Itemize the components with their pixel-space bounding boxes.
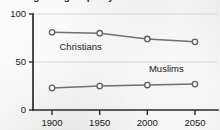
- gridlines-group: [33, 14, 218, 110]
- series-marker-muslims-1950: [97, 83, 102, 88]
- series-line-muslims: [52, 84, 195, 88]
- y-axis-ticks-group: 050100: [10, 8, 33, 115]
- x-tick-label-2000: 2000: [137, 117, 158, 128]
- y-tick-label-100: 100: [10, 8, 26, 19]
- data-series-group: [49, 30, 197, 91]
- x-axis-ticks-group: 1900195020002050: [41, 110, 205, 128]
- series-marker-christians-1900: [49, 30, 54, 35]
- series-marker-christians-2050: [192, 39, 197, 44]
- series-marker-christians-2000: [145, 36, 150, 41]
- series-marker-muslims-2050: [192, 81, 197, 86]
- series-marker-muslims-1900: [49, 85, 54, 90]
- series-label-christians: Christians: [60, 41, 102, 52]
- x-tick-label-1900: 1900: [41, 117, 62, 128]
- x-tick-label-1950: 1950: [89, 117, 110, 128]
- chart-figure: Religious groups by share 050100 1900195…: [0, 0, 220, 130]
- series-label-muslims: Muslims: [149, 63, 184, 74]
- series-marker-muslims-2000: [145, 82, 150, 87]
- y-tick-label-50: 50: [15, 56, 26, 67]
- series-annotations-group: ChristiansMuslims: [60, 41, 185, 73]
- series-marker-christians-1950: [97, 31, 102, 36]
- x-tick-label-2050: 2050: [184, 117, 205, 128]
- series-line-christians: [52, 32, 195, 42]
- y-tick-label-0: 0: [21, 104, 26, 115]
- line-chart-plot: 050100 1900195020002050 ChristiansMuslim…: [0, 0, 220, 130]
